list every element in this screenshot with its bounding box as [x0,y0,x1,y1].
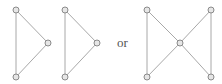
edge [147,10,180,43]
graph-triangle-2 [62,7,100,80]
graph-diagram [0,0,222,84]
node [45,40,51,46]
edge [16,10,48,43]
node [208,74,214,80]
node [94,40,100,46]
edge [180,43,211,77]
edge [65,43,97,77]
node [208,7,214,13]
node [13,74,19,80]
edge [65,10,97,43]
node [62,7,68,13]
node [144,7,150,13]
node [62,74,68,80]
graph-triangle-1 [13,7,51,80]
edge [16,43,48,77]
edge [147,43,180,77]
graph-bowtie [144,7,214,80]
node [177,40,183,46]
node [144,74,150,80]
node [13,7,19,13]
edge [180,10,211,43]
or-separator-label: or [117,35,128,51]
